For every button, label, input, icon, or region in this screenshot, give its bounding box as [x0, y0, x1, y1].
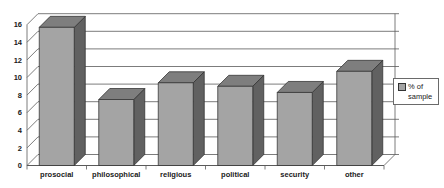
- y-axis-label: 16: [14, 20, 22, 29]
- chart: 0246810121416prosocialphilosophicalrelig…: [0, 0, 444, 188]
- floor-right-edge: [384, 155, 395, 166]
- side-wall-gridline: [27, 84, 38, 95]
- side-wall-gridline: [27, 102, 38, 113]
- category-label: security: [280, 170, 310, 179]
- legend-label: % of sample: [408, 82, 436, 101]
- legend: % of sample: [393, 78, 439, 105]
- bar: [277, 92, 312, 165]
- side-wall-gridline: [27, 49, 38, 60]
- category-label: political: [221, 170, 249, 179]
- bar-side-face: [253, 75, 264, 165]
- bar-side-face: [193, 72, 204, 166]
- bar-side-face: [74, 16, 85, 165]
- category-label: religious: [160, 170, 191, 179]
- y-axis-label: 12: [14, 56, 22, 65]
- bar-side-face: [312, 81, 323, 165]
- bar-side-face: [372, 60, 383, 165]
- y-axis-label: 10: [14, 73, 22, 82]
- side-wall-gridline: [27, 67, 38, 78]
- bar-side-face: [134, 89, 145, 166]
- side-wall-gridline: [27, 14, 38, 25]
- bar: [158, 83, 193, 166]
- y-axis-label: 0: [18, 161, 22, 170]
- category-label: prosocial: [40, 170, 73, 179]
- y-axis-label: 4: [18, 126, 23, 135]
- y-axis-label: 2: [18, 144, 22, 153]
- bar: [337, 71, 372, 165]
- category-label: philosophical: [92, 170, 140, 179]
- y-axis-label: 8: [18, 91, 22, 100]
- legend-marker-icon: [398, 83, 406, 91]
- side-wall-gridline: [27, 119, 38, 130]
- bar: [39, 27, 74, 165]
- side-wall-gridline: [27, 137, 38, 148]
- category-label: other: [345, 170, 364, 179]
- y-axis-label: 6: [18, 108, 22, 117]
- bar: [218, 86, 253, 165]
- chart-canvas: 0246810121416prosocialphilosophicalrelig…: [0, 0, 444, 188]
- y-axis-label: 14: [14, 38, 23, 47]
- bar: [99, 100, 134, 166]
- side-wall-gridline: [27, 155, 38, 166]
- side-wall-gridline: [27, 31, 38, 42]
